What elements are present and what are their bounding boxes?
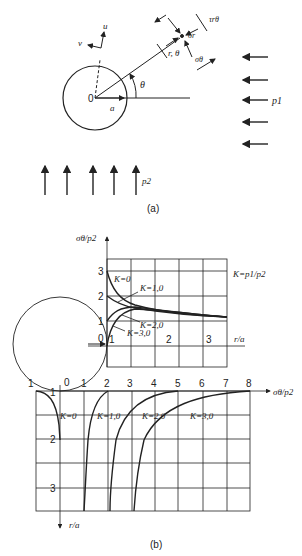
lower-xtick-7: 7 bbox=[223, 378, 229, 389]
tau-r-theta-label: τrθ bbox=[209, 15, 219, 24]
curve-k0-lower bbox=[36, 391, 60, 440]
p2-load-arrows bbox=[45, 166, 136, 195]
upper-xtick-1: 1 bbox=[109, 334, 115, 345]
upper-chart bbox=[88, 237, 245, 367]
sigma-theta-arrow-2 bbox=[166, 38, 178, 46]
tau-r-theta-arrow-1 bbox=[155, 15, 166, 22]
upper-label-k1: K=1,0 bbox=[139, 283, 164, 293]
u-label: u bbox=[103, 21, 108, 31]
lower-ytick-1: 1 bbox=[50, 387, 56, 398]
figure-canvas: 0 a θ u v r, θ σr σθ τrθ p1 p2 (a) σθ/p2 bbox=[0, 0, 302, 556]
lower-ytick-3: 3 bbox=[50, 483, 56, 494]
v-axis-arrow bbox=[88, 45, 101, 48]
lower-xtick-0: 0 bbox=[64, 377, 70, 388]
r-theta-label: r, θ bbox=[168, 48, 180, 58]
upper-ytick-3: 3 bbox=[98, 266, 104, 277]
upper-ytick-2: 2 bbox=[98, 291, 104, 302]
upper-xtick-3: 3 bbox=[206, 334, 212, 345]
lower-xtick-neg1: 1 bbox=[28, 378, 34, 389]
upper-ylabel: σθ/p2 bbox=[76, 233, 97, 243]
radius-a-label: a bbox=[110, 103, 115, 113]
lower-ytick-2: 2 bbox=[50, 434, 56, 445]
lower-xtick-2: 2 bbox=[104, 378, 110, 389]
sigma-r-arrow-in bbox=[168, 18, 180, 33]
curve-k2-upper bbox=[107, 307, 227, 321]
lower-xlabel: σθ/p2 bbox=[273, 387, 294, 397]
origin-label: 0 bbox=[88, 93, 94, 104]
curve-k1-lower bbox=[84, 391, 108, 511]
upper-label-k0: K=0 bbox=[113, 274, 131, 284]
curve-k2-lower bbox=[110, 391, 178, 511]
sigma-theta-label: σθ bbox=[195, 55, 203, 64]
u-axis-arrow bbox=[101, 32, 104, 48]
stress-point bbox=[181, 35, 184, 38]
p2-label: p2 bbox=[141, 176, 152, 186]
tau-r-theta-line-left bbox=[157, 44, 167, 58]
caption-a: (a) bbox=[147, 203, 159, 214]
lower-xtick-8: 8 bbox=[246, 378, 252, 389]
upper-ytick-0: 0 bbox=[98, 333, 104, 344]
curve-k1-upper bbox=[107, 296, 227, 317]
caption-b: (b) bbox=[150, 539, 162, 550]
upper-label-k3: K=3,0 bbox=[126, 328, 151, 338]
lower-label-k2: K=2,0 bbox=[141, 411, 166, 421]
upper-xtick-2: 2 bbox=[166, 334, 172, 345]
theta-angle-arc bbox=[130, 74, 136, 98]
lower-ylabel: r/a bbox=[69, 520, 80, 530]
lower-xtick-5: 5 bbox=[175, 378, 181, 389]
legend-note: K=p1/p2 bbox=[232, 269, 266, 279]
lower-xtick-1: 1 bbox=[81, 378, 87, 389]
lower-xtick-3: 3 bbox=[127, 378, 133, 389]
curve-k3-lower bbox=[134, 391, 250, 511]
sigma-r-label: σr bbox=[188, 31, 196, 40]
sigma-theta-arrow bbox=[185, 41, 192, 57]
theta-label: θ bbox=[140, 79, 145, 90]
v-label: v bbox=[78, 38, 82, 48]
upper-xlabel: r/a bbox=[234, 334, 245, 344]
lower-xtick-4: 4 bbox=[151, 378, 157, 389]
lower-label-k0: K=0 bbox=[59, 411, 77, 421]
lower-chart bbox=[36, 385, 270, 528]
p1-load-arrows bbox=[243, 57, 268, 144]
lower-label-k1: K=1,0 bbox=[96, 411, 121, 421]
lower-xtick-6: 6 bbox=[199, 378, 205, 389]
lower-label-k3: K=3,0 bbox=[189, 411, 214, 421]
p1-label: p1 bbox=[271, 95, 282, 106]
tau-r-theta-line-top bbox=[196, 14, 207, 31]
